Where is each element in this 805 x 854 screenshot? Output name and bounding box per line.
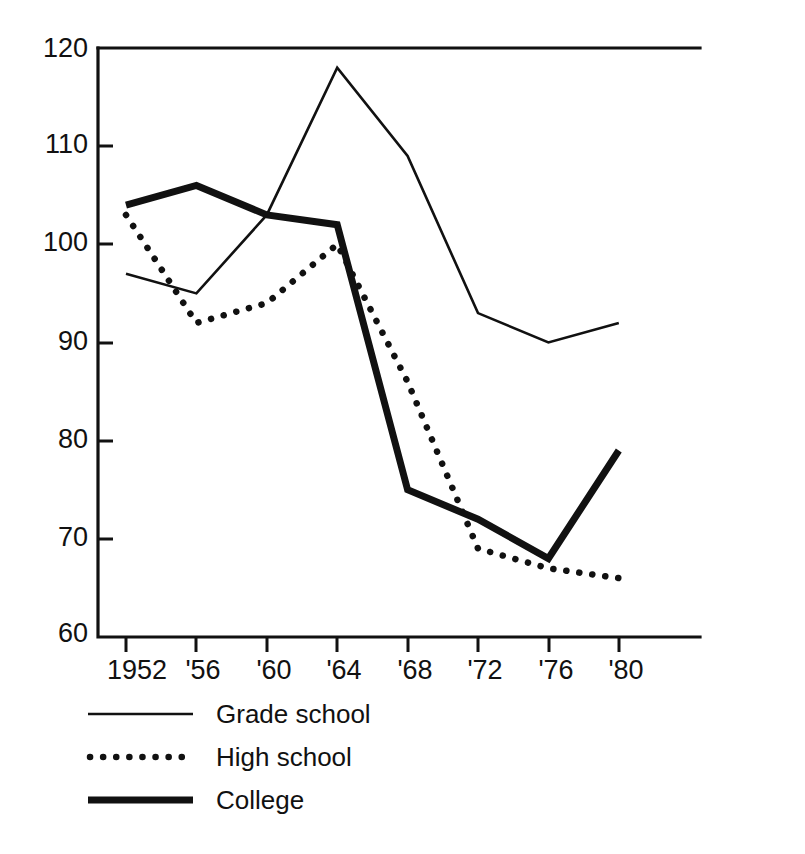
x-axis-label-1952: 1952: [107, 655, 167, 685]
x-axis-label-80: '80: [608, 655, 643, 685]
y-axis-label-80: 80: [58, 424, 88, 454]
legend-label-college: College: [216, 785, 304, 815]
series-line-grade-school: [126, 68, 619, 343]
plot-axes: [98, 48, 700, 637]
legend-label-high-school: High school: [216, 742, 352, 772]
x-axis-labels: 1952 '56 '60 '64 '68 '72 '76 '80: [107, 655, 644, 685]
x-axis-label-72: '72: [467, 655, 502, 685]
y-axis-label-70: 70: [58, 522, 88, 552]
legend-label-grade-school: Grade school: [216, 699, 371, 729]
chart-legend: Grade school High school College: [88, 699, 371, 815]
y-tick-marks: [98, 146, 113, 539]
x-axis-label-56: '56: [185, 655, 220, 685]
y-axis-label-100: 100: [43, 227, 88, 257]
legend-item-high-school: High school: [90, 742, 352, 772]
data-series-group: [126, 68, 619, 578]
legend-item-college: College: [88, 785, 304, 815]
y-axis-label-110: 110: [45, 129, 88, 159]
y-axis-label-60: 60: [58, 618, 88, 648]
chart-canvas: 120 110 100 90 80 70 60 1952 '56 '60 '64…: [0, 0, 805, 854]
x-tick-marks: [126, 637, 619, 652]
series-line-high-school: [126, 215, 619, 578]
y-axis-label-90: 90: [58, 326, 88, 356]
series-line-college: [126, 185, 619, 558]
y-axis-label-120: 120: [43, 33, 88, 63]
x-axis-label-60: '60: [256, 655, 291, 685]
x-axis-label-76: '76: [538, 655, 573, 685]
x-axis-label-64: '64: [326, 655, 361, 685]
line-chart-figure: 120 110 100 90 80 70 60 1952 '56 '60 '64…: [0, 0, 805, 854]
x-axis-label-68: '68: [397, 655, 432, 685]
y-axis-labels: 120 110 100 90 80 70 60: [43, 33, 88, 648]
axis-frame: [98, 48, 700, 637]
legend-item-grade-school: Grade school: [88, 699, 371, 729]
